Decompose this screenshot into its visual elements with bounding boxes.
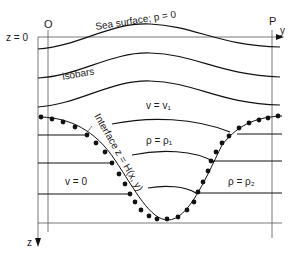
interface-curve bbox=[41, 116, 282, 220]
lower-density-label: ρ = ρ₂ bbox=[228, 176, 255, 187]
diagram-canvas: O P y z z = 0 Sea surface; p = 0 isobars… bbox=[0, 0, 301, 260]
z-axis-label: z bbox=[27, 237, 32, 248]
z-axis-arrow-icon bbox=[35, 238, 41, 247]
lower-velocity-label: v = 0 bbox=[65, 176, 87, 187]
y-axis-label: y bbox=[280, 25, 285, 36]
isobar-curve-4 bbox=[112, 119, 230, 132]
layer-diagram: O P y z z = 0 Sea surface; p = 0 isobars… bbox=[0, 0, 301, 260]
interface-label: Interface z = H(x, y) bbox=[92, 112, 145, 193]
origin-label: O bbox=[44, 18, 53, 30]
interface-label-tick bbox=[88, 126, 92, 131]
sea-surface-label: Sea surface; p = 0 bbox=[95, 8, 178, 32]
sea-surface-curve bbox=[38, 24, 280, 49]
upper-density-label: ρ = ρ₁ bbox=[146, 135, 173, 146]
isobar-curve-6 bbox=[148, 186, 196, 193]
point-p-label: P bbox=[269, 15, 276, 27]
interface-markers bbox=[39, 114, 281, 222]
upper-velocity-label: v = v₁ bbox=[146, 100, 171, 111]
isobar-curve-5 bbox=[132, 151, 214, 162]
isobars-label: isobars bbox=[61, 66, 95, 82]
z-zero-label: z = 0 bbox=[6, 32, 28, 43]
